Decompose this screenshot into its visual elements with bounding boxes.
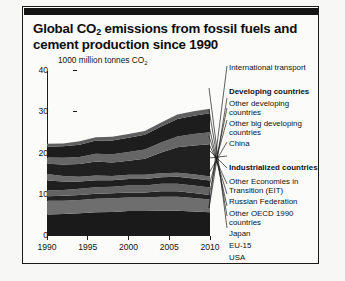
legend-item: Other Economies in Transition (EIT) <box>229 178 298 195</box>
title-co2-subscript: 2 <box>96 27 101 37</box>
chart-title: Global CO2 emissions from fossil fuels a… <box>33 21 303 52</box>
x-axis-tick-label: 1990 <box>37 242 56 252</box>
y-axis-tick-label: 20 <box>30 148 48 158</box>
x-axis-tick-mark <box>169 236 170 240</box>
legend-item: Developing countries <box>229 88 309 97</box>
unit-text: 1000 million tonnes CO <box>58 55 144 65</box>
figure-root: Global CO2 emissions from fossil fuels a… <box>0 0 345 281</box>
legend-item: Other big developing countries <box>229 120 302 137</box>
y-axis: 010203040 <box>28 66 48 241</box>
x-axis-tick-label: 2000 <box>119 242 138 252</box>
title-line1-post: emissions from fossil fuels and <box>101 21 297 36</box>
y-axis-tick-label: 30 <box>30 106 48 116</box>
legend-item: Russian Federation <box>229 198 297 207</box>
y-axis-tick-label: 10 <box>30 189 48 199</box>
legend-item: Other OECD 1990 countries <box>229 210 293 227</box>
y-axis-unit-label: 1000 million tonnes CO2 <box>58 55 148 65</box>
legend-item: Japan <box>229 230 251 239</box>
x-axis-tick-label: 1995 <box>78 242 97 252</box>
x-axis-tick-mark <box>47 236 48 240</box>
x-axis: 19901995200020052010 <box>0 236 345 252</box>
legend-item: International transport <box>229 64 306 73</box>
x-axis-tick-label: 2005 <box>160 242 179 252</box>
legend-item: USA <box>229 254 245 263</box>
frame-top-rule <box>24 8 318 15</box>
title-line2: cement production since 1990 <box>33 37 218 52</box>
area-band <box>47 211 210 235</box>
stacked-area-chart <box>47 70 210 235</box>
x-axis-tick-mark <box>87 236 88 240</box>
title-line1-pre: Global CO <box>33 21 96 36</box>
legend-item: China <box>229 140 250 149</box>
plot-area <box>47 70 210 235</box>
leader-line <box>209 110 227 216</box>
x-axis-tick-label: 2010 <box>200 242 219 252</box>
unit-co2-subscript: 2 <box>144 60 147 66</box>
legend-item: EU-15 <box>229 242 251 251</box>
legend-item: Other developing countries <box>229 100 289 117</box>
x-axis-tick-mark <box>128 236 129 240</box>
legend-item: Industrialized countries <box>229 164 318 173</box>
y-axis-tick-label: 40 <box>30 65 48 75</box>
